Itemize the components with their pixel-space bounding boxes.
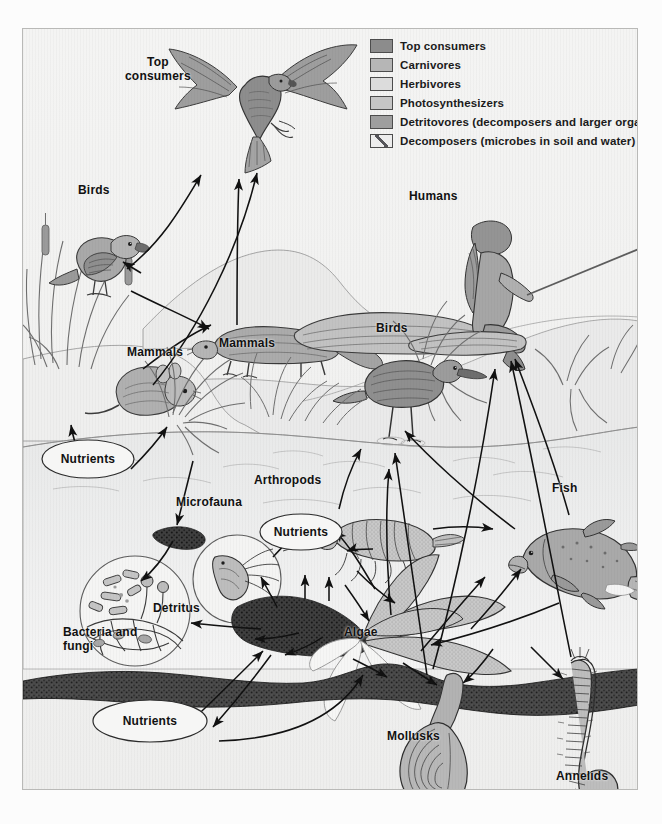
label-bacteria-fungi: Bacteria and fungi <box>63 625 137 653</box>
label-top-consumers: Top consumers <box>125 55 191 83</box>
legend-item-carnivores: Carnivores <box>370 56 638 74</box>
legend-label-herbivores: Herbivores <box>400 78 461 90</box>
diagram-frame: Top consumers Carnivores Herbivores Phot… <box>22 28 638 790</box>
label-microfauna: Microfauna <box>176 495 242 509</box>
legend-label-carnivores: Carnivores <box>400 59 461 71</box>
label-nutrients-water: Nutrients <box>260 514 342 550</box>
label-birds-wading: Birds <box>376 321 408 335</box>
label-nutrients-soil: Nutrients <box>42 440 134 478</box>
legend-item-herbivores: Herbivores <box>370 75 638 93</box>
legend-swatch-carnivores <box>370 58 393 72</box>
legend-item-top-consumers: Top consumers <box>370 37 638 55</box>
legend-label-decomposers: Decomposers (microbes in soil and water) <box>400 135 635 147</box>
legend-label-photosynthesizers: Photosynthesizers <box>400 97 504 109</box>
label-nutrients-sediment: Nutrients <box>93 700 207 742</box>
label-mammals-weasel: Mammals <box>219 336 275 350</box>
label-humans: Humans <box>409 189 458 203</box>
legend-item-decomposers: Decomposers (microbes in soil and water) <box>370 132 638 150</box>
legend-item-detritovores: Detritovores (decomposers and larger org… <box>370 113 638 131</box>
legend-swatch-photosynthesizers <box>370 96 393 110</box>
label-arthropods: Arthropods <box>254 473 321 487</box>
legend-swatch-top-consumers <box>370 39 393 53</box>
figure-page: Top consumers Carnivores Herbivores Phot… <box>0 0 662 824</box>
label-detritus: Detritus <box>153 601 200 615</box>
legend-label-detritovores: Detritovores (decomposers and larger org… <box>400 116 638 128</box>
legend: Top consumers Carnivores Herbivores Phot… <box>370 37 638 151</box>
label-birds-left: Birds <box>78 183 110 197</box>
legend-label-top-consumers: Top consumers <box>400 40 486 52</box>
legend-item-photosynthesizers: Photosynthesizers <box>370 94 638 112</box>
label-algae: Algae <box>344 625 378 639</box>
legend-swatch-detritovores <box>370 115 393 129</box>
legend-swatch-decomposers <box>370 134 393 148</box>
label-mollusks: Mollusks <box>387 729 440 743</box>
label-annelids: Annelids <box>556 769 608 783</box>
legend-swatch-herbivores <box>370 77 393 91</box>
label-mammals-mouse: Mammals <box>127 345 183 359</box>
label-fish: Fish <box>552 481 577 495</box>
